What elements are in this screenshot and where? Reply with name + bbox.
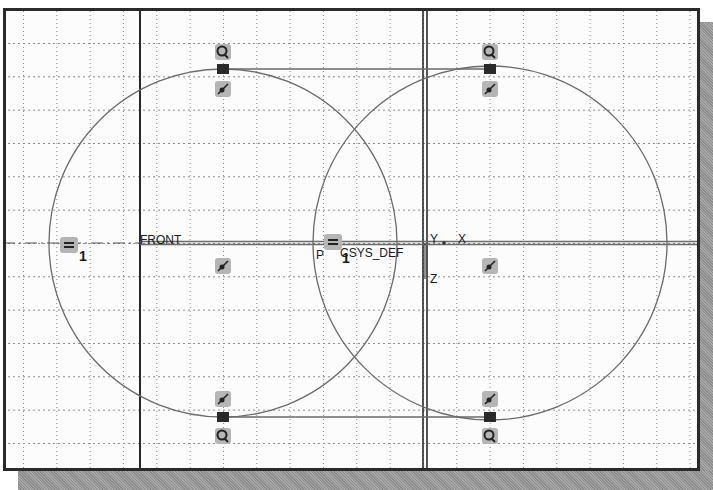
csys-origin-icon xyxy=(442,241,446,245)
tangent-point-bottom-right[interactable] xyxy=(484,412,496,422)
datum-front-label: FRONT xyxy=(140,234,181,246)
sketch-graphics[interactable] xyxy=(3,8,700,471)
point-on-entity-icon[interactable] xyxy=(215,391,231,407)
axis-y-label: Y xyxy=(430,233,438,245)
viewport-shadow-bottom xyxy=(18,471,713,490)
viewport-shadow-right xyxy=(700,22,713,490)
tangent-point-top-right[interactable] xyxy=(484,64,496,74)
tangent-icon[interactable] xyxy=(482,428,498,444)
point-on-entity-icon[interactable] xyxy=(482,258,498,274)
tangent-icon[interactable] xyxy=(482,44,498,60)
point-on-entity-icon[interactable] xyxy=(215,258,231,274)
tangent-icon[interactable] xyxy=(215,44,231,60)
tangent-point-bottom-left[interactable] xyxy=(217,412,229,422)
point-on-entity-icon[interactable] xyxy=(215,81,231,97)
sketch-canvas[interactable]: FRONT 1 P 1 CSYS_DEF Y X Z xyxy=(3,8,700,471)
tangent-icon[interactable] xyxy=(215,428,231,444)
axis-x-label: X xyxy=(458,233,466,245)
csys-prefix-label: P xyxy=(316,249,324,261)
csys-label: CSYS_DEF xyxy=(340,247,403,259)
equal-icon[interactable] xyxy=(60,237,78,253)
axis-z-label: Z xyxy=(430,273,437,285)
point-on-entity-icon[interactable] xyxy=(482,81,498,97)
point-on-entity-icon[interactable] xyxy=(482,391,498,407)
grid-horizontal xyxy=(3,8,700,471)
tangent-point-top-left[interactable] xyxy=(217,64,229,74)
equal-constraint-index-left: 1 xyxy=(79,249,87,263)
